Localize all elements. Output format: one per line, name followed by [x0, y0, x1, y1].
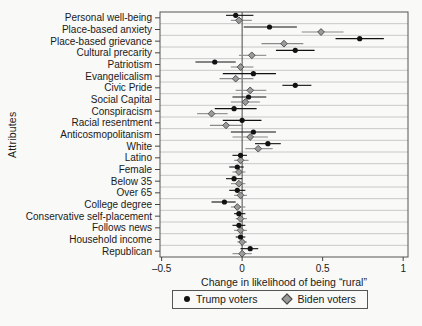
category-label: College degree [84, 199, 152, 210]
biden-point-marker [232, 75, 239, 82]
category-label: Civic Pride [104, 82, 152, 93]
legend-label-biden: Biden voters [297, 293, 355, 305]
category-label: Household income [69, 234, 152, 245]
biden-point-marker [239, 250, 246, 257]
biden-point-marker [236, 169, 243, 176]
category-label: Over 65 [116, 187, 152, 198]
trump-point-marker [235, 188, 240, 193]
category-label: Place-based anxiety [62, 24, 152, 35]
trump-point-marker [238, 234, 243, 239]
trump-point-marker [265, 141, 270, 146]
biden-point-marker [318, 29, 325, 36]
legend-item-biden: Biden voters [283, 293, 355, 305]
trump-point-marker [246, 94, 251, 99]
trump-point-marker [240, 118, 245, 123]
trump-point-marker [231, 106, 236, 111]
biden-point-marker [242, 99, 249, 106]
category-label: White [126, 141, 152, 152]
category-label: Evangelicalism [85, 71, 152, 82]
biden-point-marker [247, 134, 254, 141]
category-label: Cultural precarity [76, 47, 152, 58]
biden-point-marker [236, 180, 243, 187]
biden-point-marker [255, 145, 262, 152]
trump-point-marker [238, 153, 243, 158]
trump-point-marker [233, 13, 238, 18]
biden-point-marker [223, 122, 230, 129]
coefficient-plot-figure: Attributes Personal well-beingPlace-base… [0, 0, 422, 326]
category-label: Place-based grievance [50, 36, 152, 47]
trump-point-marker [222, 199, 227, 204]
biden-point-marker [234, 204, 241, 211]
biden-point-marker [237, 157, 244, 164]
x-tick-label: –0.5 [152, 263, 172, 274]
biden-point-marker [239, 239, 246, 246]
biden-point-marker [237, 64, 244, 71]
x-tick-label: 0.5 [316, 263, 330, 274]
x-tick-label: 1 [400, 263, 406, 274]
legend: Trump voters Biden voters [172, 290, 368, 309]
trump-point-marker [248, 246, 253, 251]
trump-point-marker [293, 83, 298, 88]
trump-point-marker [236, 211, 241, 216]
biden-point-marker [281, 40, 288, 47]
biden-point-marker [247, 87, 254, 94]
trump-circle-marker-icon [184, 296, 190, 302]
trump-point-marker [251, 71, 256, 76]
x-axis-title: Change in likelihood of being “rural” [160, 276, 408, 288]
biden-point-marker [237, 192, 244, 199]
category-label: Female [119, 164, 153, 175]
category-label: Racial resentment [71, 117, 152, 128]
biden-point-marker [237, 215, 244, 222]
y-axis-title: Attributes [4, 12, 20, 257]
trump-point-marker [357, 36, 362, 41]
category-label: Anticosmopolitanism [60, 129, 152, 140]
biden-point-marker [248, 52, 255, 59]
trump-point-marker [267, 24, 272, 29]
biden-point-marker [236, 17, 243, 24]
category-label: Latino [125, 152, 153, 163]
trump-point-marker [231, 176, 236, 181]
biden-point-marker [237, 227, 244, 234]
biden-diamond-marker-icon [282, 293, 293, 304]
biden-point-marker [208, 110, 215, 117]
category-label: Republican [102, 246, 152, 257]
trump-point-marker [293, 48, 298, 53]
trump-point-marker [251, 129, 256, 134]
trump-point-marker [236, 223, 241, 228]
category-label: Below 35 [111, 176, 153, 187]
category-label: Social Capital [91, 94, 152, 105]
category-label: Personal well-being [65, 12, 152, 23]
category-label: Follows news [92, 222, 152, 233]
plot-frame [160, 12, 408, 257]
trump-point-marker [212, 59, 217, 64]
category-label: Patriotism [108, 59, 152, 70]
trump-point-marker [235, 164, 240, 169]
x-tick-label: 0 [239, 263, 245, 274]
legend-item-trump: Trump voters [184, 293, 257, 305]
category-label: Conservative self-placement [26, 211, 152, 222]
legend-label-trump: Trump voters [196, 293, 257, 305]
category-label: Conspiracism [91, 106, 152, 117]
